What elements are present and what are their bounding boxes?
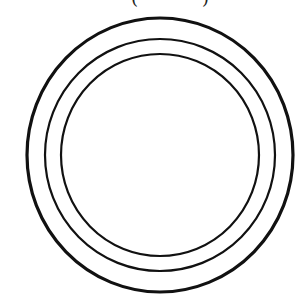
outer-ring <box>27 18 293 292</box>
middle-ring <box>45 39 275 271</box>
diagram-canvas: ( ) <box>0 0 298 307</box>
concentric-circles-figure <box>0 0 298 307</box>
inner-ring <box>61 54 259 256</box>
